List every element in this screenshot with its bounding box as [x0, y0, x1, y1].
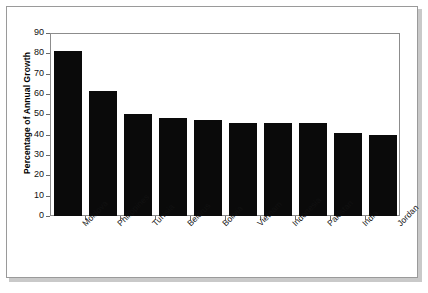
bar: [229, 123, 257, 216]
y-tick-label: 30: [34, 149, 44, 159]
x-axis-labels: MoldovaPhilippinesTunisiaBelarusBoliviaV…: [50, 221, 400, 281]
y-tick-label: 90: [34, 27, 44, 37]
bar: [54, 51, 82, 216]
y-tick-label: 20: [34, 169, 44, 179]
bar: [194, 120, 222, 216]
bar: [369, 135, 397, 216]
x-tick-label: Bolivia: [220, 221, 227, 228]
y-tick-label: 80: [34, 47, 44, 57]
bar-series: [50, 33, 400, 216]
chart-figure: Percentage of Annual Growth 010203040506…: [0, 0, 428, 293]
y-tick-label: 40: [34, 129, 44, 139]
y-tick-label: 70: [34, 68, 44, 78]
x-tick-label: Vietnam: [255, 221, 262, 228]
bar: [159, 118, 187, 216]
x-tick-label: Jordan: [395, 221, 402, 228]
y-tick-label: 0: [39, 210, 44, 220]
x-tick-label: India: [360, 221, 367, 228]
y-tick-label: 50: [34, 108, 44, 118]
bar: [89, 91, 117, 216]
x-tick-label: Tunisia: [150, 221, 157, 228]
x-tick-label: Moldova: [80, 221, 87, 228]
y-axis-title: Percentage of Annual Growth: [22, 23, 32, 203]
y-tick-label: 10: [34, 190, 44, 200]
x-tick-label: Indonesia: [290, 221, 297, 228]
x-tick-label: Pakistan: [325, 221, 332, 228]
y-tick-label: 60: [34, 88, 44, 98]
x-tick-label: Belarus: [185, 221, 192, 228]
x-tick-label: Philippines: [115, 221, 122, 228]
